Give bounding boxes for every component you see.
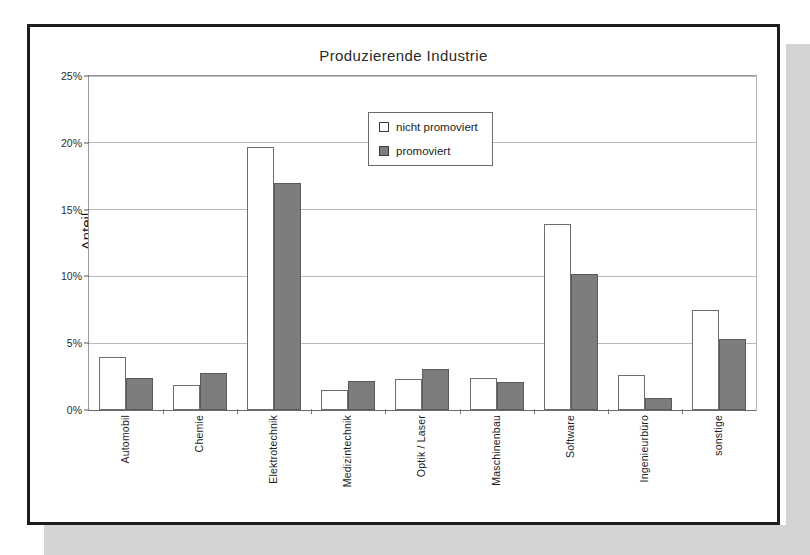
y-tick-label: 25% bbox=[61, 70, 82, 82]
y-tick-label: 15% bbox=[61, 204, 82, 216]
bar bbox=[692, 310, 719, 410]
bar-group bbox=[534, 76, 608, 410]
x-label-cell: Maschinenbau bbox=[459, 415, 533, 525]
y-tick-label: 20% bbox=[61, 137, 82, 149]
x-label-cell: Ingenieurbüro bbox=[607, 415, 681, 525]
bar bbox=[247, 147, 274, 410]
chart-title: Produzierende Industrie bbox=[30, 47, 777, 64]
bar bbox=[470, 378, 497, 410]
bar bbox=[395, 379, 422, 410]
x-tick-label: Elektrotechnik bbox=[267, 415, 279, 484]
x-label-cell: Medizintechnik bbox=[310, 415, 384, 525]
y-tick-label: 10% bbox=[61, 270, 82, 282]
bar bbox=[126, 378, 153, 410]
x-tick-label: Ingenieurbüro bbox=[638, 415, 650, 482]
x-axis-labels: AutomobilChemieElektrotechnikMedizintech… bbox=[88, 415, 755, 525]
x-label-cell: sonstige bbox=[681, 415, 755, 525]
legend-item-promoviert: promoviert bbox=[379, 145, 478, 157]
bar-group bbox=[608, 76, 682, 410]
bar bbox=[321, 390, 348, 410]
chart-frame: Produzierende Industrie Anteil 0%5%10%15… bbox=[27, 24, 780, 525]
x-label-cell: Chemie bbox=[162, 415, 236, 525]
x-tick-label: Software bbox=[564, 415, 576, 458]
chart-legend: nicht promoviert promoviert bbox=[368, 112, 493, 166]
x-tick-label: Optik / Laser bbox=[415, 415, 427, 477]
legend-item-nicht-promoviert: nicht promoviert bbox=[379, 121, 478, 133]
bar bbox=[274, 183, 301, 410]
bar bbox=[200, 373, 227, 410]
bar bbox=[173, 385, 200, 410]
bar bbox=[99, 357, 126, 410]
bar bbox=[618, 375, 645, 410]
page-shadow-bottom bbox=[44, 525, 810, 555]
y-tick-label: 0% bbox=[67, 404, 82, 416]
bar-group bbox=[163, 76, 237, 410]
legend-swatch-icon-dark bbox=[379, 146, 389, 156]
x-label-cell: Elektrotechnik bbox=[236, 415, 310, 525]
legend-label-promoviert: promoviert bbox=[396, 145, 450, 157]
bar bbox=[544, 224, 571, 410]
bar bbox=[571, 274, 598, 410]
bar bbox=[422, 369, 449, 410]
bar-group bbox=[682, 76, 756, 410]
x-tick-label: Chemie bbox=[193, 415, 205, 452]
x-label-cell: Automobil bbox=[88, 415, 162, 525]
bar bbox=[497, 382, 524, 410]
x-label-cell: Optik / Laser bbox=[384, 415, 458, 525]
x-tick-label: Automobil bbox=[119, 415, 131, 464]
legend-label-nicht-promoviert: nicht promoviert bbox=[396, 121, 478, 133]
scanned-page: Produzierende Industrie Anteil 0%5%10%15… bbox=[0, 0, 810, 555]
legend-swatch-icon-light bbox=[379, 122, 389, 132]
page-shadow-right bbox=[786, 44, 810, 555]
x-tick-label: Medizintechnik bbox=[341, 415, 353, 487]
y-tick-label: 5% bbox=[67, 337, 82, 349]
bar-group bbox=[89, 76, 163, 410]
x-tick-label: sonstige bbox=[712, 415, 724, 456]
x-label-cell: Software bbox=[533, 415, 607, 525]
bar bbox=[645, 398, 672, 410]
bar-group bbox=[237, 76, 311, 410]
bar bbox=[719, 339, 746, 410]
bar bbox=[348, 381, 375, 410]
x-tick-label: Maschinenbau bbox=[490, 415, 502, 486]
